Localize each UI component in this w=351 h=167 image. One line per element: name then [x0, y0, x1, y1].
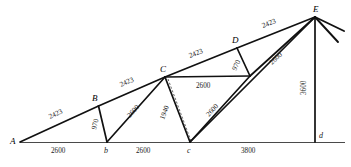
- dim-label-base-ab: 2600: [51, 147, 66, 155]
- node-label-D: D: [231, 35, 239, 45]
- web-horizontal-c-to-dfoot: [165, 76, 250, 77]
- dim-label-post-b: 970: [90, 118, 100, 131]
- dim-label-chord-cd: 2423: [188, 47, 205, 60]
- truss-diagram-svg: A B C D E b c d 2423 2423 2423 2423 970 …: [0, 0, 351, 167]
- dashed-reference-line: [168, 79, 191, 141]
- stay-brace-upper: [315, 17, 344, 31]
- dim-label-chord-de: 2423: [261, 17, 278, 30]
- stay-brace-lower: [315, 17, 338, 42]
- dim-label-web-cc: 1940: [158, 104, 171, 121]
- node-label-E: E: [312, 4, 319, 14]
- chord-segment-de: [237, 17, 315, 48]
- node-label-c: c: [187, 146, 191, 155]
- dim-label-chord-ab: 2423: [48, 107, 65, 120]
- truss-diagram-container: A B C D E b c d 2423 2423 2423 2423 970 …: [0, 0, 351, 167]
- dim-label-chord-bc: 2423: [119, 76, 136, 89]
- node-label-A: A: [9, 136, 16, 146]
- dim-label-post-d: 970: [231, 58, 243, 72]
- dim-label-column-height: 3600: [300, 80, 308, 95]
- dim-label-web-de: 2600: [268, 51, 284, 67]
- dim-label-base-bc: 2600: [136, 147, 151, 155]
- web-diagonal-c-to-e: [190, 17, 315, 142]
- node-label-b: b: [104, 146, 108, 155]
- node-label-C: C: [160, 64, 167, 74]
- node-label-d: d: [319, 131, 324, 140]
- post-b-vertical: [99, 106, 108, 142]
- node-label-B: B: [92, 93, 98, 103]
- dim-label-base-cd: 3800: [241, 147, 256, 155]
- dim-label-web-horiz: 2600: [196, 82, 211, 90]
